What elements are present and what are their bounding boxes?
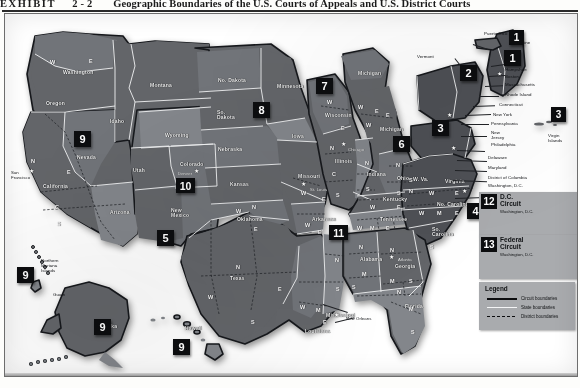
mariana-islet xyxy=(31,245,35,249)
aleutian-islet xyxy=(43,359,47,363)
legend-label: Circuit boundaries xyxy=(521,296,557,301)
court-circuit-city: Washington, D.C. xyxy=(500,210,534,214)
aleutian-islet xyxy=(50,358,54,362)
circuit-number-badge: 9 xyxy=(173,339,190,355)
circuit-number-badge: 1 xyxy=(504,50,521,66)
callout-leader xyxy=(479,96,499,97)
callout-leader xyxy=(461,136,487,137)
legend-label: District boundaries xyxy=(521,314,558,319)
exhibit-title: EXHIBIT2-2Geographic Boundaries of the U… xyxy=(0,0,580,10)
aleutian-islet xyxy=(36,360,40,364)
aleutian-islet xyxy=(29,362,33,366)
legend-title: Legend xyxy=(485,285,571,292)
mariana-islet xyxy=(34,250,38,254)
exhibit-number: 2-2 xyxy=(72,0,95,9)
legend-rows: Circuit boundariesState boundariesDistri… xyxy=(483,294,571,321)
legend-label: State boundaries xyxy=(521,305,555,310)
mariana-islet xyxy=(43,265,47,269)
callout-leader xyxy=(461,124,489,125)
exhibit-page: EXHIBIT2-2Geographic Boundaries of the U… xyxy=(0,0,580,388)
mariana-islet xyxy=(37,255,41,259)
circuit-number-badge: 8 xyxy=(253,102,270,118)
circuit-number-badge: 3 xyxy=(432,120,449,136)
circuit-number-badge: 3 xyxy=(551,107,566,122)
circuit-number-badge: 9 xyxy=(17,267,34,283)
court-circuit-name: FederalCircuit xyxy=(500,237,534,250)
court-circuit-box: 12D.C.CircuitWashington, D.C. xyxy=(479,192,578,236)
circuit-number-badge: 7 xyxy=(316,78,333,94)
exhibit-title-text: Geographic Boundaries of the U.S. Courts… xyxy=(113,0,470,9)
circuit-number-badge: 13 xyxy=(481,237,497,252)
circuit-number-badge: 9 xyxy=(94,319,111,335)
mariana-islet xyxy=(40,260,44,264)
circuit-number-badge: 1 xyxy=(509,30,524,45)
circuit-number-badge: 9 xyxy=(74,131,91,147)
legend-swatch-state xyxy=(487,307,517,308)
title-rule xyxy=(2,10,578,12)
legend-swatch-circuit xyxy=(487,298,517,300)
court-circuit-text: FederalCircuitWashington, D.C. xyxy=(500,237,534,257)
circuit-number-badge: 12 xyxy=(481,194,497,209)
circuit-number-badge: 6 xyxy=(393,136,410,152)
mariana-islet xyxy=(46,271,50,275)
map-figure: WashingtonOregonIdahoMontanaWyomingNevad… xyxy=(4,13,578,377)
aleutian-islet xyxy=(57,357,61,361)
legend-row-state: State boundaries xyxy=(483,303,571,312)
circuit-number-badge: 5 xyxy=(157,230,174,246)
court-circuit-box: 13FederalCircuitWashington, D.C. xyxy=(479,235,578,279)
legend-row-district: District boundaries xyxy=(483,312,571,321)
court-circuit-name: D.C.Circuit xyxy=(500,194,534,207)
legend-row-circuit: Circuit boundaries xyxy=(483,294,571,303)
aleutian-islet xyxy=(64,355,68,359)
circuit-number-badge: 11 xyxy=(329,225,348,240)
court-circuit-text: D.C.CircuitWashington, D.C. xyxy=(500,194,534,214)
circuit-number-badge: 2 xyxy=(460,65,477,81)
circuit-number-badge: 10 xyxy=(176,178,195,193)
map-legend: Legend Circuit boundariesState boundarie… xyxy=(479,282,575,330)
court-circuit-city: Washington, D.C. xyxy=(500,253,534,257)
legend-swatch-district xyxy=(487,316,517,317)
exhibit-label: EXHIBIT xyxy=(0,0,56,9)
